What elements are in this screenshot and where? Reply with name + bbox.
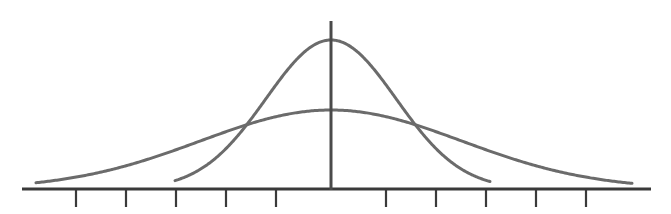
chart-canvas (0, 0, 671, 214)
chart-background (0, 0, 671, 214)
normal-distribution-figure (0, 0, 671, 214)
